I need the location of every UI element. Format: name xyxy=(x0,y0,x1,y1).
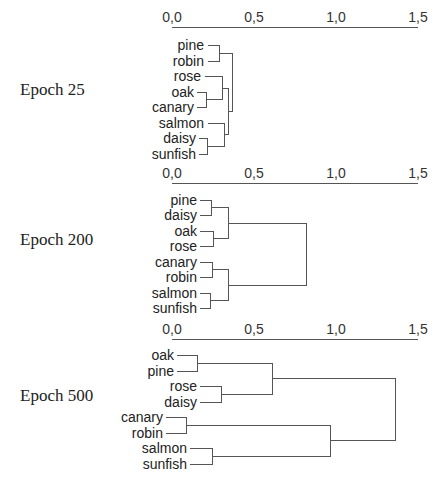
leaf-label: salmon xyxy=(159,115,204,131)
leaf-label: pine xyxy=(178,37,205,53)
axis: 0,0 0,5 1,0 1,5 xyxy=(162,165,428,183)
leaf-label: pine xyxy=(148,363,175,379)
dendrogram-epoch-200: Epoch 200 0,0 0,5 1,0 1,5 pine daisy oak… xyxy=(0,156,442,316)
tick-label: 0,5 xyxy=(244,9,264,25)
dendrogram-svg: 0,0 0,5 1,0 1,5 oak pine rose daisy cana… xyxy=(0,312,442,482)
axis: 0,0 0,5 1,0 1,5 xyxy=(162,321,428,339)
leaf-label: oak xyxy=(174,223,198,239)
tick-label: 0,0 xyxy=(162,321,182,337)
leaf-label: oak xyxy=(151,347,175,363)
leaf-label: robin xyxy=(166,269,197,285)
tick-label: 1,0 xyxy=(326,9,346,25)
tree-branches xyxy=(200,200,306,308)
leaf-label: canary xyxy=(155,254,197,270)
leaf-label: canary xyxy=(121,409,163,425)
leaf-labels: pine robin rose oak canary salmon daisy … xyxy=(152,37,205,162)
leaf-label: oak xyxy=(171,84,195,100)
tree-branches xyxy=(166,355,395,464)
leaf-label: robin xyxy=(132,425,163,441)
tick-label: 1,5 xyxy=(408,321,428,337)
tick-label: 0,5 xyxy=(244,321,264,337)
dendrogram-epoch-25: Epoch 25 0,0 0,5 1,0 1,5 pine robin rose… xyxy=(0,0,442,160)
dendrogram-svg: 0,0 0,5 1,0 1,5 pine daisy oak rose cana… xyxy=(0,156,442,316)
leaf-label: sunfish xyxy=(143,456,187,472)
leaf-labels: pine daisy oak rose canary robin salmon … xyxy=(152,192,198,316)
leaf-label: salmon xyxy=(142,440,187,456)
axis: 0,0 0,5 1,0 1,5 xyxy=(162,9,428,27)
tick-label: 0,5 xyxy=(244,165,264,181)
leaf-label: rose xyxy=(174,68,201,84)
leaf-labels: oak pine rose daisy canary robin salmon … xyxy=(121,347,197,472)
leaf-label: canary xyxy=(152,99,194,115)
tick-label: 1,0 xyxy=(326,321,346,337)
tick-label: 1,5 xyxy=(408,165,428,181)
tick-label: 1,0 xyxy=(326,165,346,181)
dendrogram-svg: 0,0 0,5 1,0 1,5 pine robin rose oak cana… xyxy=(0,0,442,160)
leaf-label: daisy xyxy=(163,130,196,146)
tick-label: 0,0 xyxy=(162,165,182,181)
tick-label: 1,5 xyxy=(408,9,428,25)
leaf-label: daisy xyxy=(164,394,197,410)
dendrogram-epoch-500: Epoch 500 0,0 0,5 1,0 1,5 oak pine rose … xyxy=(0,312,442,482)
leaf-label: rose xyxy=(170,238,197,254)
tick-label: 0,0 xyxy=(162,9,182,25)
leaf-label: daisy xyxy=(164,207,197,223)
leaf-label: rose xyxy=(170,378,197,394)
leaf-label: robin xyxy=(173,53,204,69)
leaf-label: salmon xyxy=(152,285,197,301)
leaf-label: pine xyxy=(171,192,198,208)
